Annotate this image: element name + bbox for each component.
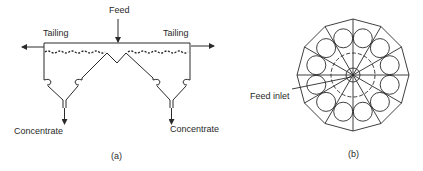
flotation-cell-circle xyxy=(334,29,353,48)
diagram-canvas xyxy=(0,0,423,171)
radial-partition xyxy=(353,27,381,76)
radial-partition xyxy=(325,27,353,76)
right-hopper xyxy=(153,78,190,108)
feed-inlet-label: Feed inlet xyxy=(250,92,290,101)
flotation-cell-circle xyxy=(317,39,336,58)
flotation-cell-circle xyxy=(380,56,399,75)
caption-b: (b) xyxy=(348,150,359,159)
caption-a: (a) xyxy=(111,152,122,161)
right-sloped-bottom xyxy=(126,53,153,78)
concentrate-left-label: Concentrate xyxy=(14,127,63,136)
flotation-cell-circle xyxy=(307,75,326,94)
flotation-cell-circle xyxy=(353,29,372,48)
flotation-cell-circle xyxy=(334,102,353,121)
radial-partition xyxy=(325,75,353,124)
flotation-cell-circle xyxy=(353,102,372,121)
flotation-cell-circle xyxy=(307,56,326,75)
panel-b-plan-view xyxy=(292,19,409,131)
flotation-cell-circle xyxy=(380,75,399,94)
flotation-cell-circle xyxy=(317,92,336,111)
radial-partitions xyxy=(297,19,409,131)
radial-partition xyxy=(353,75,402,103)
flotation-cell-circle xyxy=(370,92,389,111)
tailing-right-label: Tailing xyxy=(163,29,189,38)
feed-inlet-leader-line xyxy=(292,77,351,89)
left-hopper xyxy=(44,78,82,108)
radial-partition xyxy=(353,47,402,75)
feed-label: Feed xyxy=(109,6,130,15)
radial-partition xyxy=(305,47,354,75)
tailing-left-label: Tailing xyxy=(43,29,69,38)
froth-layer-left xyxy=(45,51,105,53)
radial-partition xyxy=(305,75,354,103)
left-sloped-bottom xyxy=(82,53,107,78)
flotation-cell-circle xyxy=(370,39,389,58)
concentrate-right-label: Concentrate xyxy=(170,125,219,134)
central-v-divider xyxy=(107,53,126,63)
froth-layer-right xyxy=(128,51,188,53)
radial-partition xyxy=(353,75,381,124)
